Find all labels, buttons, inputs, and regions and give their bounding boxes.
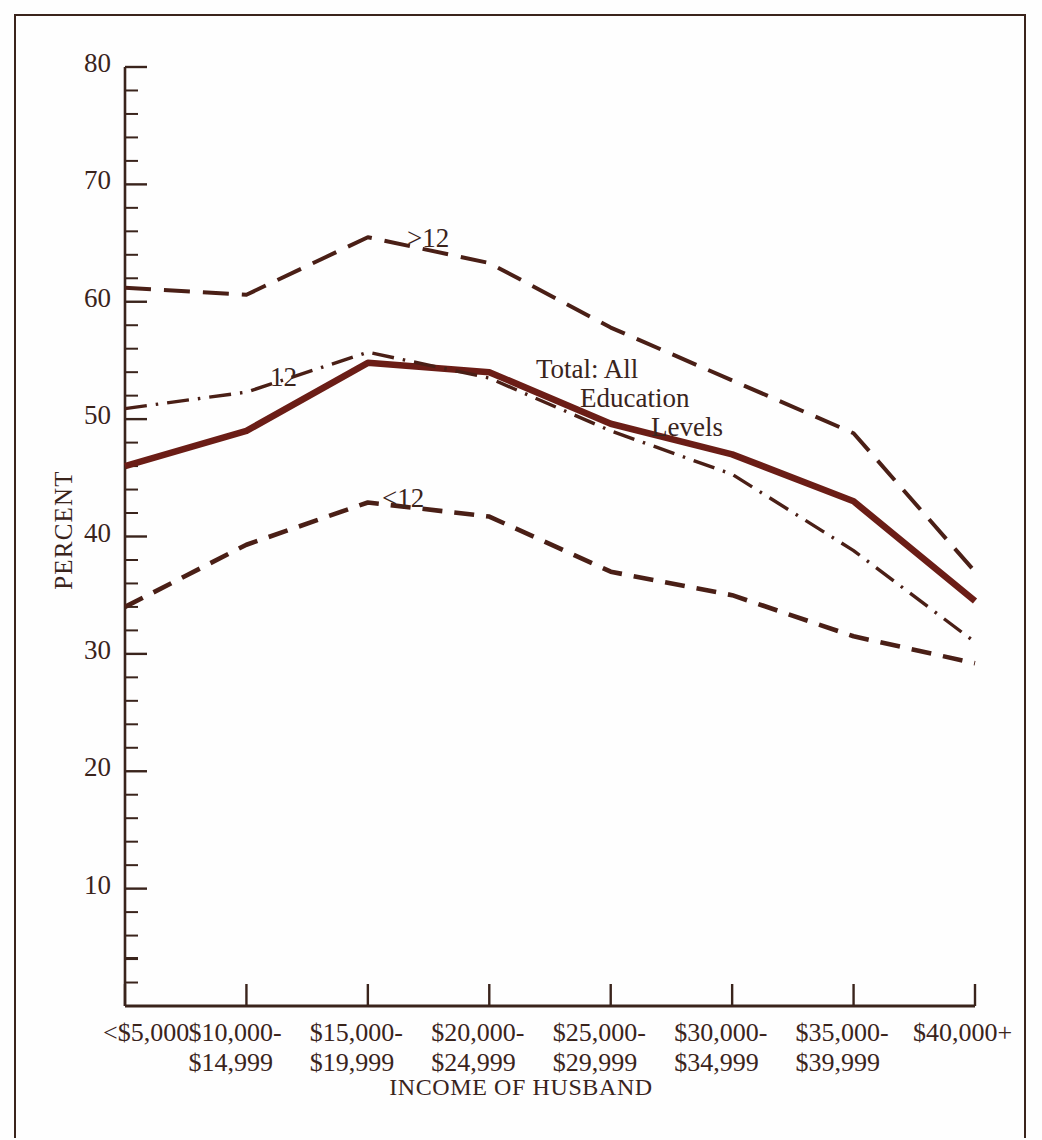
- series-annotation-label: 12: [270, 362, 297, 393]
- y-tick-label: 50: [51, 400, 111, 431]
- x-tick-label: $25,000- $29,999: [553, 1018, 646, 1078]
- series-line-12: [125, 502, 975, 663]
- y-tick-label: 80: [51, 48, 111, 79]
- series-annotation-label: Levels: [651, 412, 723, 443]
- chart-page: PERCENT INCOME OF HUSBAND 10203040506070…: [0, 0, 1042, 1140]
- y-tick-label: 30: [51, 635, 111, 666]
- axes-group: [125, 67, 975, 1006]
- x-tick-label: $20,000- $24,999: [431, 1018, 524, 1078]
- y-tick-label: 70: [51, 165, 111, 196]
- line-chart-canvas: [0, 0, 1042, 1140]
- x-tick-label: $35,000- $39,999: [796, 1018, 889, 1078]
- series-lines-group: [125, 237, 975, 663]
- series-line-total-all-education-levels: [125, 363, 975, 601]
- series-annotation-label: Total: All: [536, 354, 638, 385]
- y-tick-label: 40: [51, 518, 111, 549]
- y-tick-label: 60: [51, 283, 111, 314]
- y-tick-label: 10: [51, 870, 111, 901]
- series-annotation-label: <12: [382, 483, 424, 514]
- x-tick-label: <$5,000: [103, 1018, 189, 1048]
- x-tick-label: $10,000- $14,999: [188, 1018, 281, 1078]
- series-annotation-label: Education: [580, 383, 689, 414]
- x-tick-label: $15,000- $19,999: [310, 1018, 403, 1078]
- x-tick-label: $30,000- $34,999: [674, 1018, 767, 1078]
- y-tick-label: 20: [51, 752, 111, 783]
- x-tick-label: $40,000+: [913, 1018, 1012, 1048]
- series-annotation-label: >12: [407, 223, 449, 254]
